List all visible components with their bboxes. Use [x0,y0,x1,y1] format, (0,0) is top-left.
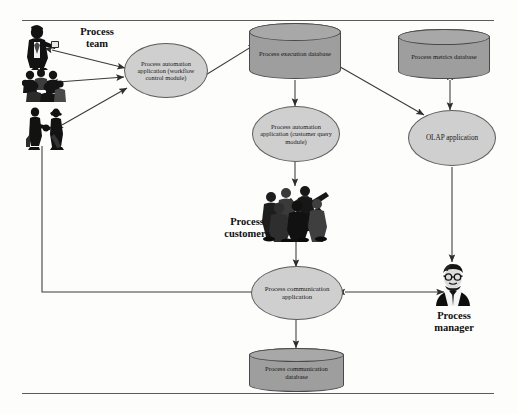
customer-query-application-node[interactable]: Process automation application (customer… [252,106,340,162]
customer-query-application-label: Process automation application (customer… [259,123,333,145]
connector-team2-workflow [58,77,124,82]
process-communication-database-node[interactable]: Process communication database [249,348,344,392]
cylinder-top-ellipse [249,23,341,41]
process-execution-database-node[interactable]: Process execution database [249,23,341,79]
process-manager-caption: Process manager [416,310,492,334]
workflow-control-application-label: Process automation application (workflow… [131,60,201,82]
group-of-people-icon [22,68,66,102]
olap-application-node[interactable]: OLAP application [408,110,496,166]
cylinder-top-ellipse [398,29,490,45]
olap-application-label: OLAP application [415,134,489,142]
process-customers-caption: Process customers [216,216,278,240]
process-team-caption: Process team [60,26,134,50]
cylinder-top-ellipse [249,348,344,362]
manager-portrait-icon [432,262,474,306]
diagram-canvas: Process team Process customers Process m… [0,0,517,414]
handshake-pair-icon [24,106,68,150]
businessman-with-tablet-icon [22,24,60,70]
process-execution-database-label: Process execution database [256,50,334,58]
process-metrics-database-label: Process metrics database [405,53,483,61]
communication-application-label: Process communication application [258,285,336,300]
workflow-control-application-node[interactable]: Process automation application (workflow… [124,43,208,98]
connector-team1-workflow [52,50,125,68]
connector-team3-workflow [62,88,127,125]
communication-application-node[interactable]: Process communication application [251,266,343,320]
process-metrics-database-node[interactable]: Process metrics database [398,29,490,79]
process-communication-database-label: Process communication database [256,365,337,380]
